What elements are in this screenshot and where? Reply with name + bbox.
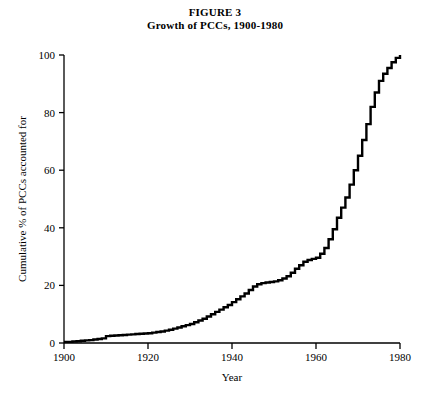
x-axis-title: Year <box>222 371 243 383</box>
x-tick-label: 1980 <box>389 351 412 363</box>
y-axis-title: Cumulative % of PCCs accounted for <box>16 116 28 282</box>
x-axis-ticks <box>64 343 400 349</box>
y-axis-ticks <box>59 55 64 343</box>
y-tick-label: 20 <box>44 279 56 291</box>
x-tick-label: 1960 <box>305 351 328 363</box>
x-tick-label: 1940 <box>221 351 244 363</box>
x-axis-tick-labels: 19001920194019601980 <box>53 351 412 363</box>
x-tick-label: 1900 <box>53 351 76 363</box>
y-tick-label: 0 <box>50 337 56 349</box>
x-tick-label: 1920 <box>137 351 160 363</box>
y-tick-label: 40 <box>44 222 56 234</box>
figure-container: FIGURE 3 Growth of PCCs, 1900-1980 02040… <box>0 0 430 402</box>
axes-group <box>64 55 400 343</box>
y-axis-tick-labels: 020406080100 <box>39 49 56 349</box>
y-tick-label: 80 <box>44 107 56 119</box>
y-tick-label: 100 <box>39 49 56 61</box>
y-tick-label: 60 <box>44 164 56 176</box>
chart-plot: 020406080100 19001920194019601980 Year C… <box>0 0 430 402</box>
cumulative-pcc-step-line <box>64 55 400 342</box>
